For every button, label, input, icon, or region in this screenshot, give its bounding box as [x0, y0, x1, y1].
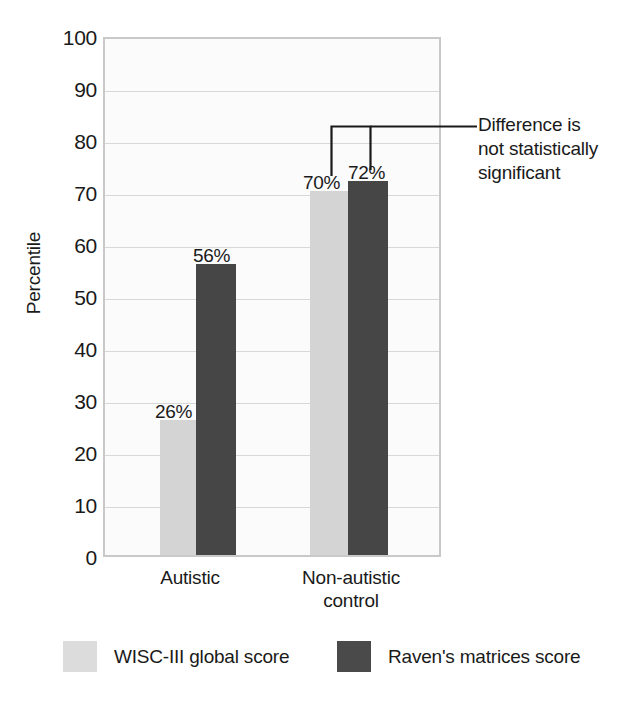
gridline-60: [105, 247, 439, 248]
y-tick-0: 0: [40, 547, 97, 568]
gridline-70: [105, 195, 439, 196]
y-tick-70: 70: [40, 183, 97, 204]
gridline-80: [105, 143, 439, 144]
legend-swatch-light-icon: [63, 641, 97, 672]
y-tick-50: 50: [40, 287, 97, 308]
bar-value-autistic-raven: 56%: [193, 246, 230, 265]
y-axis-tick-labels: 100 90 80 70 60 50 40 30 20 10 0: [40, 37, 97, 557]
bar-value-control-raven: 72%: [348, 163, 385, 182]
bar-autistic-wisc[interactable]: [160, 420, 196, 555]
bar-autistic-raven[interactable]: [196, 264, 236, 555]
x-category-line-2: control: [281, 589, 421, 612]
bar-control-wisc[interactable]: [310, 191, 348, 555]
plot-area: 26% 56% 70% 72%: [103, 37, 441, 557]
y-tick-40: 40: [40, 339, 97, 360]
x-category-line-1: Non-autistic: [281, 566, 421, 589]
annotation-line-3: significant: [478, 161, 623, 185]
bar-chart-figure: Percentile 100 90 80 70 60 50 40 30 20 1…: [0, 0, 623, 709]
legend-swatch-dark-icon: [337, 641, 371, 672]
x-category-label-control: Non-autistic control: [281, 566, 421, 612]
x-category-line-1: Autistic: [125, 566, 255, 589]
x-category-label-autistic: Autistic: [125, 566, 255, 589]
y-tick-100: 100: [40, 27, 97, 48]
y-tick-20: 20: [40, 443, 97, 464]
gridline-90: [105, 91, 439, 92]
gridline-50: [105, 299, 439, 300]
legend-item-wisc[interactable]: WISC-III global score: [63, 641, 289, 672]
y-tick-60: 60: [40, 235, 97, 256]
annotation-line-2: not statistically: [478, 137, 623, 161]
y-tick-90: 90: [40, 79, 97, 100]
bar-control-raven[interactable]: [348, 181, 388, 555]
chart-legend: WISC-III global score Raven's matrices s…: [0, 641, 623, 681]
y-tick-30: 30: [40, 391, 97, 412]
bar-value-autistic-wisc: 26%: [155, 402, 192, 421]
bar-value-control-wisc: 70%: [303, 173, 340, 192]
legend-item-raven[interactable]: Raven's matrices score: [337, 641, 580, 672]
legend-label-raven: Raven's matrices score: [388, 646, 580, 668]
gridline-40: [105, 351, 439, 352]
gridline-10: [105, 507, 439, 508]
gridline-20: [105, 455, 439, 456]
annotation-line-1: Difference is: [478, 113, 623, 137]
y-tick-10: 10: [40, 495, 97, 516]
legend-label-wisc: WISC-III global score: [114, 646, 289, 668]
y-tick-80: 80: [40, 131, 97, 152]
significance-annotation-text: Difference is not statistically signific…: [478, 113, 623, 185]
